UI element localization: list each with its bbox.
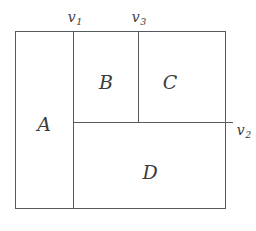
outer-rectangle-bottom-edge bbox=[15, 208, 226, 209]
region-label-c: C bbox=[163, 73, 178, 92]
vertex-label-v1: v1 bbox=[68, 10, 82, 24]
vertex-label-v2-base: v bbox=[237, 122, 245, 138]
rectangle-dissection-figure: A B C D v1 v3 v2 bbox=[0, 0, 256, 231]
vertex-label-v3-subscript: 3 bbox=[140, 16, 146, 27]
vertex-label-v3-base: v bbox=[132, 9, 140, 25]
vertex-label-v2: v2 bbox=[237, 123, 251, 137]
horizontal-divider-v2 bbox=[73, 122, 226, 123]
region-label-b: B bbox=[99, 73, 113, 92]
vertical-divider-v1 bbox=[73, 31, 74, 209]
vertex-label-v2-subscript: 2 bbox=[245, 129, 251, 140]
outer-rectangle-top-edge bbox=[15, 31, 226, 32]
tick-mark-v2 bbox=[225, 122, 233, 123]
vertex-label-v1-base: v bbox=[68, 9, 76, 25]
vertical-divider-v3 bbox=[138, 31, 139, 123]
region-label-d: D bbox=[142, 163, 157, 182]
outer-rectangle-left-edge bbox=[15, 31, 16, 209]
vertex-label-v1-subscript: 1 bbox=[76, 16, 82, 27]
region-label-a: A bbox=[37, 115, 51, 134]
outer-rectangle-right-edge bbox=[225, 31, 226, 209]
vertex-label-v3: v3 bbox=[132, 10, 146, 24]
